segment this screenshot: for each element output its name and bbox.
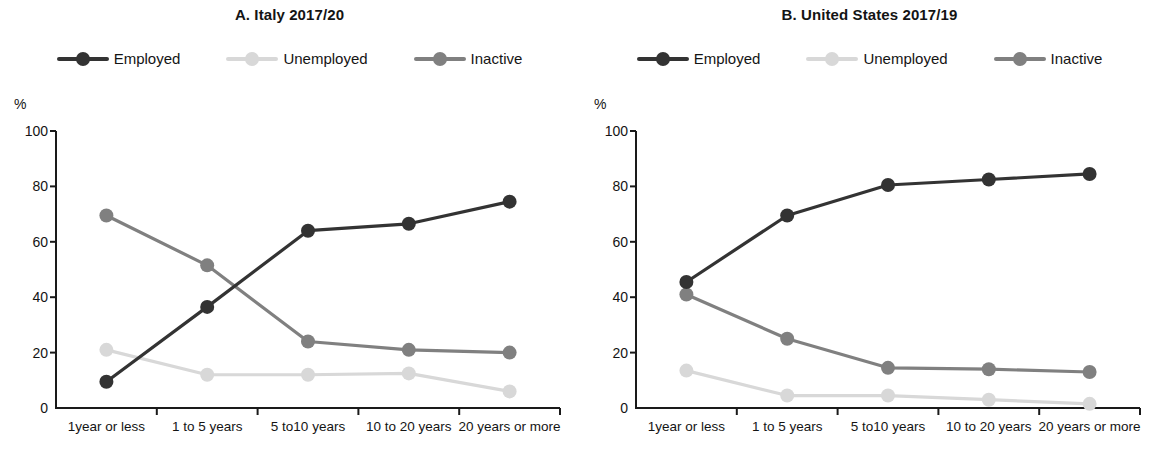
data-point-employed[interactable] [200,300,214,314]
data-point-employed[interactable] [679,275,693,289]
panel-united-states: B. United States 2017/19 Employed Unempl… [580,0,1159,463]
data-point-inactive[interactable] [200,258,214,272]
x-tick-label: 20 years or more [454,419,566,435]
data-point-unemployed[interactable] [679,364,693,378]
data-point-employed[interactable] [99,375,113,389]
figure-canvas: A. Italy 2017/20 Employed Unemployed [0,0,1159,463]
x-tick-label: 1year or less [630,419,742,435]
data-point-inactive[interactable] [982,362,996,376]
data-point-employed[interactable] [1083,167,1097,181]
series-line-inactive [686,294,1089,372]
data-point-unemployed[interactable] [402,366,416,380]
x-tick-label: 20 years or more [1034,419,1146,435]
x-tick-label: 5 to10 years [832,419,944,435]
panel-b-svg [580,0,1159,463]
data-point-employed[interactable] [402,217,416,231]
panel-italy: A. Italy 2017/20 Employed Unemployed [0,0,579,463]
data-point-inactive[interactable] [679,287,693,301]
data-point-unemployed[interactable] [503,384,517,398]
data-point-unemployed[interactable] [780,389,794,403]
data-point-inactive[interactable] [402,343,416,357]
data-point-employed[interactable] [301,224,315,238]
panel-a-svg [0,0,579,463]
data-point-employed[interactable] [503,195,517,209]
x-tick-label: 1 to 5 years [731,419,843,435]
x-tick-label: 10 to 20 years [353,419,465,435]
panel-a-plot: 020406080100 1year or less1 to 5 years5 … [0,0,579,463]
data-point-unemployed[interactable] [301,368,315,382]
axis-lines [56,131,560,408]
data-point-inactive[interactable] [503,346,517,360]
data-point-inactive[interactable] [1083,365,1097,379]
data-point-unemployed[interactable] [200,368,214,382]
x-tick-label: 1year or less [50,419,162,435]
data-point-inactive[interactable] [780,332,794,346]
data-point-employed[interactable] [982,172,996,186]
data-point-unemployed[interactable] [1083,397,1097,411]
data-point-employed[interactable] [881,178,895,192]
data-point-inactive[interactable] [99,208,113,222]
data-point-employed[interactable] [780,208,794,222]
x-tick-label: 5 to10 years [252,419,364,435]
data-point-unemployed[interactable] [881,389,895,403]
data-point-inactive[interactable] [881,361,895,375]
panel-b-plot: 020406080100 1year or less1 to 5 years5 … [580,0,1159,463]
x-tick-label: 1 to 5 years [151,419,263,435]
data-point-unemployed[interactable] [982,393,996,407]
data-point-unemployed[interactable] [99,343,113,357]
data-point-inactive[interactable] [301,335,315,349]
x-tick-label: 10 to 20 years [933,419,1045,435]
